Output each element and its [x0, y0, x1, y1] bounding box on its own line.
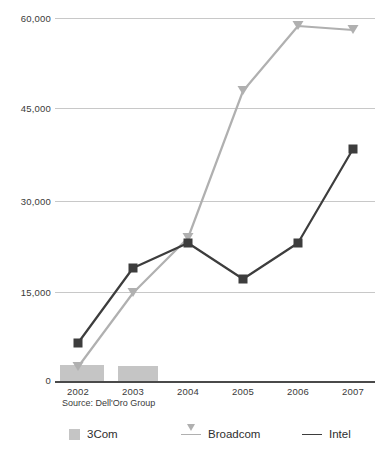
triangle-down-marker-icon — [181, 429, 201, 440]
marker-broadcom-2002 — [73, 362, 84, 371]
x-axis-label-2006: 2006 — [278, 386, 318, 397]
y-axis-labels: 60,000 45,000 30,000 15,000 0 — [0, 0, 51, 453]
series-lines — [55, 18, 375, 382]
legend-item-broadcom[interactable]: Broadcom — [181, 428, 260, 440]
chart-legend: 3Com Broadcom Intel — [0, 428, 390, 450]
line-intel — [78, 149, 353, 343]
legend-item-3com[interactable]: 3Com — [69, 428, 118, 440]
y-axis-label-15000: 15,000 — [5, 287, 51, 298]
chart-title-clipped — [55, 0, 355, 2]
legend-label-3com: 3Com — [87, 428, 118, 440]
y-axis-label-45000: 45,000 — [5, 103, 51, 114]
y-axis-label-30000: 30,000 — [5, 196, 51, 207]
line-broadcom — [78, 26, 353, 367]
legend-label-broadcom: Broadcom — [208, 428, 260, 440]
legend-label-intel: Intel — [329, 428, 351, 440]
square-marker-icon — [302, 429, 322, 440]
x-axis-label-2003: 2003 — [113, 386, 153, 397]
square-swatch-icon — [69, 429, 80, 440]
marker-broadcom-2003 — [128, 288, 139, 297]
y-axis-label-60000: 60,000 — [5, 13, 51, 24]
marker-intel-2005 — [239, 275, 248, 284]
x-axis-label-2005: 2005 — [223, 386, 263, 397]
x-axis-label-2007: 2007 — [333, 386, 373, 397]
chart-container: 60,000 45,000 30,000 15,000 0 — [0, 0, 390, 453]
marker-intel-2007 — [349, 145, 358, 154]
plot-area — [55, 18, 375, 382]
marker-broadcom-2005 — [238, 86, 249, 95]
marker-intel-2002 — [74, 339, 83, 348]
marker-intel-2003 — [129, 264, 138, 273]
marker-intel-2004 — [184, 239, 193, 248]
x-axis-line — [55, 381, 375, 383]
x-axis-label-2004: 2004 — [168, 386, 208, 397]
y-axis-label-0: 0 — [5, 375, 51, 386]
x-axis-label-2002: 2002 — [58, 386, 98, 397]
source-note: Source: Dell'Oro Group — [62, 398, 155, 408]
legend-item-intel[interactable]: Intel — [302, 428, 351, 440]
marker-intel-2006 — [294, 239, 303, 248]
